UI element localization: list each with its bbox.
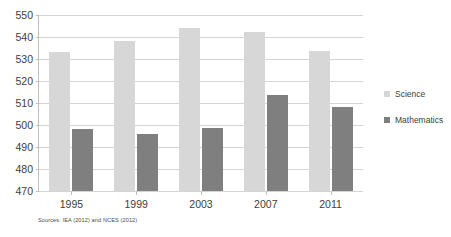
bar-mathematics-2007[interactable] <box>267 95 288 191</box>
legend-swatch-icon <box>384 91 390 97</box>
x-axis-tick-label: 1999 <box>104 198 169 210</box>
x-axis-tick-mark <box>331 191 332 195</box>
bar-group: 1995 <box>39 15 104 191</box>
bar-science-2011[interactable] <box>309 51 330 191</box>
bar-group: 2007 <box>233 15 298 191</box>
x-axis-tick-label: 2003 <box>169 198 234 210</box>
x-axis-tick-label: 2011 <box>298 198 363 210</box>
legend-label: Science <box>395 90 425 99</box>
x-axis-tick-mark <box>71 191 72 195</box>
bars-layer: 19951999200320072011 <box>39 15 363 191</box>
y-axis-tick-label: 490 <box>15 142 33 153</box>
bar-science-1995[interactable] <box>49 52 70 191</box>
x-axis-tick-mark <box>266 191 267 195</box>
bar-science-2003[interactable] <box>179 28 200 191</box>
chart-title <box>0 0 370 2</box>
bar-group: 2003 <box>169 15 234 191</box>
y-axis-tick-label: 530 <box>15 54 33 65</box>
plot-area: 550540530520510500490480470 199519992003… <box>38 15 363 192</box>
chart-legend: ScienceMathematics <box>384 90 451 141</box>
bar-mathematics-1995[interactable] <box>72 129 93 191</box>
bar-mathematics-1999[interactable] <box>137 134 158 191</box>
bar-group: 2011 <box>298 15 363 191</box>
bar-science-2007[interactable] <box>244 32 265 192</box>
bar-science-1999[interactable] <box>114 41 135 191</box>
x-axis-tick-label: 1995 <box>39 198 104 210</box>
x-axis-tick-mark <box>201 191 202 195</box>
y-axis-tick-label: 470 <box>15 186 33 197</box>
y-axis-tick-label: 500 <box>15 120 33 131</box>
bar-mathematics-2003[interactable] <box>202 128 223 191</box>
x-axis-tick-label: 2007 <box>233 198 298 210</box>
y-axis-tick-label: 520 <box>15 76 33 87</box>
y-axis-tick-label: 510 <box>15 98 33 109</box>
bar-mathematics-2011[interactable] <box>332 107 353 191</box>
bar-group: 1999 <box>104 15 169 191</box>
source-note: Sources: IEA (2012) and NCES (2012) <box>38 217 137 223</box>
y-axis-tick-label: 480 <box>15 164 33 175</box>
legend-label: Mathematics <box>395 116 443 125</box>
bar-chart-figure: 550540530520510500490480470 199519992003… <box>0 0 451 237</box>
y-axis-tick-mark <box>36 191 39 192</box>
legend-entry-science[interactable]: Science <box>384 90 451 99</box>
legend-swatch-icon <box>384 117 390 123</box>
y-axis-tick-label: 540 <box>15 32 33 43</box>
y-axis-tick-label: 550 <box>15 10 33 21</box>
x-axis-tick-mark <box>136 191 137 195</box>
legend-entry-mathematics[interactable]: Mathematics <box>384 116 451 125</box>
